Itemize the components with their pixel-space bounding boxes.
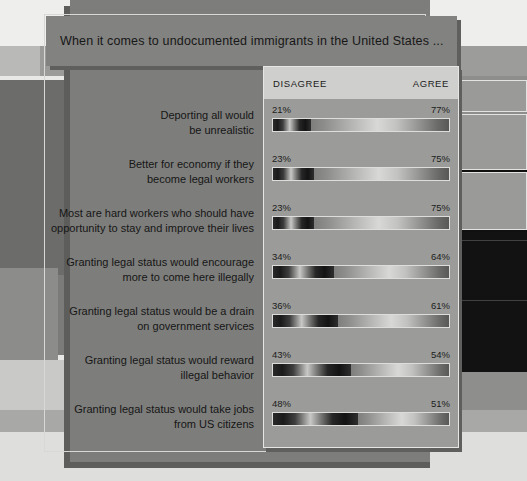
bar-segment-disagree <box>273 168 314 180</box>
stacked-bar <box>272 265 450 279</box>
question-label-line: be unrealistic <box>11 123 254 138</box>
question-label-line: become legal workers <box>11 172 254 187</box>
bar-segment-disagree <box>273 315 338 327</box>
question-label-line: Granting legal status would be a drain <box>11 304 254 319</box>
disagree-percent: 23% <box>272 203 291 213</box>
bar-segment-disagree <box>273 119 311 131</box>
background-card-a <box>452 80 527 112</box>
bar-segment-agree <box>334 266 449 278</box>
background-block-dark-edge <box>452 232 527 372</box>
background-card-b <box>452 114 527 170</box>
legend-disagree-label: DISAGREE <box>273 78 327 89</box>
question-label-line: Most are hard workers who should have <box>11 206 254 221</box>
bar-segment-disagree <box>273 266 334 278</box>
chart-rows: 21%77%23%75%23%75%34%64%36%61%43%54%48%5… <box>264 99 458 442</box>
question-label-line: Granting legal status would reward <box>11 353 254 368</box>
row-values: 36%61% <box>272 295 450 310</box>
disagree-percent: 43% <box>272 350 291 360</box>
question-label-line: Granting legal status would take jobs <box>11 402 254 417</box>
question-label: Granting legal status would be a drainon… <box>11 304 263 334</box>
row-values: 48%51% <box>272 393 450 408</box>
chart-row: 21%77% <box>264 99 458 148</box>
chart-row: 34%64% <box>264 246 458 295</box>
question-label-line: from US citizens <box>11 417 254 432</box>
question-label: Granting legal status would take jobsfro… <box>11 402 263 432</box>
stacked-bar <box>272 216 450 230</box>
bar-segment-agree <box>358 413 449 425</box>
row-values: 23%75% <box>272 148 450 163</box>
bar-segment-agree <box>311 119 449 131</box>
question-label-line: on government services <box>11 319 254 334</box>
bar-segment-agree <box>338 315 449 327</box>
disagree-percent: 48% <box>272 399 291 409</box>
chart-row: 43%54% <box>264 344 458 393</box>
screenshot-canvas: When it comes to undocumented immigrants… <box>0 0 527 481</box>
question-label: Most are hard workers who should haveopp… <box>11 206 263 236</box>
question-label-line: opportunity to stay and improve their li… <box>11 221 254 236</box>
stacked-bar <box>272 412 450 426</box>
stacked-bar <box>272 314 450 328</box>
background-card-c <box>452 172 527 230</box>
legend-agree-label: AGREE <box>413 78 449 89</box>
disagree-percent: 23% <box>272 154 291 164</box>
agree-percent: 61% <box>431 301 450 311</box>
stacked-bar <box>272 118 450 132</box>
chart-row: 23%75% <box>264 148 458 197</box>
disagree-percent: 36% <box>272 301 291 311</box>
disagree-percent: 34% <box>272 252 291 262</box>
agree-percent: 75% <box>431 203 450 213</box>
chart-row: 23%75% <box>264 197 458 246</box>
question-label-column: Deporting all wouldbe unrealisticBetter … <box>0 0 263 462</box>
stacked-bar <box>272 363 450 377</box>
agree-percent: 64% <box>431 252 450 262</box>
chart-row: 48%51% <box>264 393 458 442</box>
agree-percent: 75% <box>431 154 450 164</box>
agree-percent: 51% <box>431 399 450 409</box>
question-label-line: illegal behavior <box>11 368 254 383</box>
chart-card: DISAGREE AGREE 21%77%23%75%23%75%34%64%3… <box>263 66 459 448</box>
bar-segment-agree <box>314 217 449 229</box>
question-label-line: more to come here illegally <box>11 270 254 285</box>
chart-legend-header: DISAGREE AGREE <box>264 67 458 99</box>
stacked-bar <box>272 167 450 181</box>
row-values: 43%54% <box>272 344 450 359</box>
row-values: 21%77% <box>272 99 450 114</box>
question-label: Better for economy if theybecome legal w… <box>11 157 263 187</box>
question-label: Granting legal status would encouragemor… <box>11 255 263 285</box>
disagree-percent: 21% <box>272 105 291 115</box>
question-label: Granting legal status would rewardillega… <box>11 353 263 383</box>
question-label-line: Better for economy if they <box>11 157 254 172</box>
bar-segment-disagree <box>273 413 358 425</box>
agree-percent: 54% <box>431 350 450 360</box>
question-label-line: Granting legal status would encourage <box>11 255 254 270</box>
agree-percent: 77% <box>431 105 450 115</box>
bar-segment-disagree <box>273 364 351 376</box>
bar-segment-agree <box>314 168 449 180</box>
question-label: Deporting all wouldbe unrealistic <box>11 108 263 138</box>
question-label-line: Deporting all would <box>11 108 254 123</box>
bar-segment-disagree <box>273 217 314 229</box>
chart-row: 36%61% <box>264 295 458 344</box>
row-values: 34%64% <box>272 246 450 261</box>
row-values: 23%75% <box>272 197 450 212</box>
bar-segment-agree <box>351 364 449 376</box>
